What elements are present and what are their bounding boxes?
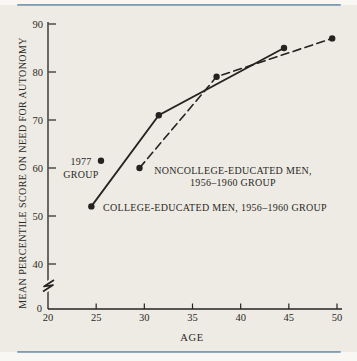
series-1-line — [140, 38, 333, 168]
y-tick-label: 90 — [33, 19, 44, 30]
x-tick-label: 30 — [139, 312, 150, 323]
x-axis-ticks: 20253035404550 — [43, 304, 343, 324]
y-tick-label: 40 — [33, 259, 44, 270]
x-axis-title: AGE — [162, 332, 222, 343]
scanned-book-figure: 405060708090020253035404550 MEAN PERCENT… — [0, 0, 357, 361]
series-1-marker — [136, 165, 142, 171]
annotation-college: COLLEGE-EDUCATED MEN, 1956–1960 GROUP — [103, 202, 348, 213]
annotation-noncollege-line2: 1956–1960 GROUP — [145, 177, 321, 189]
annotation-1977-line1: 1977 — [55, 155, 107, 168]
y-tick-label: 80 — [33, 67, 44, 78]
series-0-marker — [88, 203, 94, 209]
series-1-marker — [213, 74, 219, 80]
series-1 — [136, 35, 335, 171]
x-tick-label: 50 — [332, 312, 343, 323]
y-axis-ticks: 4050607080900 — [33, 19, 57, 314]
y-tick-label: 50 — [33, 211, 44, 222]
annotation-1977-group: 1977 GROUP — [55, 155, 107, 181]
annotation-noncollege-line1: NONCOLLEGE-EDUCATED MEN, — [145, 165, 321, 177]
x-tick-label: 25 — [91, 312, 102, 323]
x-tick-label: 45 — [284, 312, 295, 323]
x-tick-label: 40 — [235, 312, 246, 323]
series-1-marker — [329, 35, 335, 41]
series-0-marker — [281, 45, 287, 51]
x-tick-label: 35 — [187, 312, 198, 323]
series-0-marker — [156, 112, 162, 118]
y-axis-title: MEAN PERCENTILE SCORE ON NEED FOR AUTONO… — [17, 3, 31, 343]
annotation-1977-line2: GROUP — [55, 168, 107, 181]
y-tick-label: 70 — [33, 115, 44, 126]
y-tick-label: 60 — [33, 163, 44, 174]
x-tick-label: 20 — [43, 312, 54, 323]
y-origin-label: 0 — [37, 303, 42, 314]
annotation-noncollege: NONCOLLEGE-EDUCATED MEN, 1956–1960 GROUP — [145, 165, 321, 188]
